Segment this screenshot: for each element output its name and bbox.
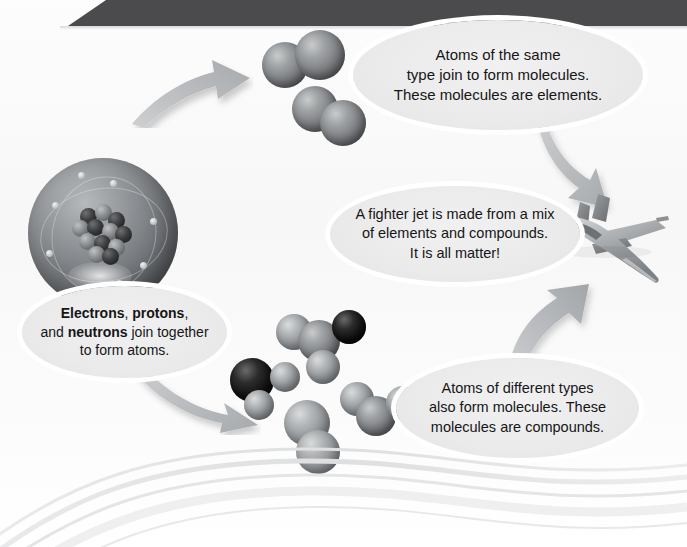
header-bar <box>0 0 687 26</box>
element-molecules <box>262 30 372 145</box>
atom-sphere <box>244 390 274 420</box>
atom-sphere <box>270 362 300 392</box>
electron <box>52 202 59 209</box>
bottom-swoosh-decoration <box>0 437 687 547</box>
bold-protons: protons <box>132 305 184 321</box>
electron <box>78 172 85 179</box>
electron <box>140 262 147 269</box>
electron <box>150 218 157 225</box>
atom-sphere <box>332 310 366 344</box>
atoms-callout: Electrons, protons, and neutrons join to… <box>22 286 227 378</box>
jet-callout-text: A fighter jet is made from a mix of elem… <box>343 205 566 262</box>
atoms-callout-text: Electrons, protons, and neutrons join to… <box>28 304 220 359</box>
electron <box>110 180 117 187</box>
diagram-page: Atoms of the same type join to form mole… <box>0 0 687 547</box>
elements-callout-text: Atoms of the same type join to form mole… <box>382 45 614 104</box>
nucleus <box>70 204 132 260</box>
bold-neutrons: neutrons <box>68 324 128 340</box>
header-bar-shadow <box>60 26 687 30</box>
compounds-callout-text: Atoms of different types also form molec… <box>417 379 618 436</box>
elements-callout: Atoms of the same type join to form mole… <box>353 20 643 130</box>
arrow-atoms-to-elements <box>128 58 253 128</box>
atom-sphere <box>320 100 366 146</box>
atom-sphere <box>295 30 345 80</box>
bold-electrons: Electrons <box>61 305 125 321</box>
jet-callout: A fighter jet is made from a mix of elem… <box>330 186 580 282</box>
atom-sphere <box>306 350 340 384</box>
neutron <box>102 248 119 265</box>
electron <box>46 250 53 257</box>
